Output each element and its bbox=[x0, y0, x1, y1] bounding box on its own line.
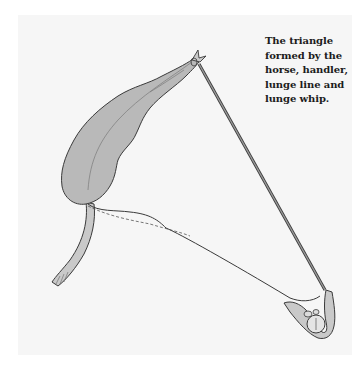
handler-top-view bbox=[284, 290, 335, 339]
horse-ears bbox=[192, 50, 206, 62]
horse-body bbox=[62, 58, 201, 204]
caption-line: horse, handler, bbox=[265, 63, 355, 78]
caption-line: lunge whip. bbox=[265, 92, 355, 107]
figure-caption: The triangle formed by the horse, handle… bbox=[265, 34, 355, 107]
horse-tail bbox=[52, 202, 95, 286]
horse-top-view bbox=[52, 50, 206, 286]
caption-line: The triangle bbox=[265, 34, 355, 49]
caption-line: lunge line and bbox=[265, 78, 355, 93]
caption-line: formed by the bbox=[265, 49, 355, 64]
